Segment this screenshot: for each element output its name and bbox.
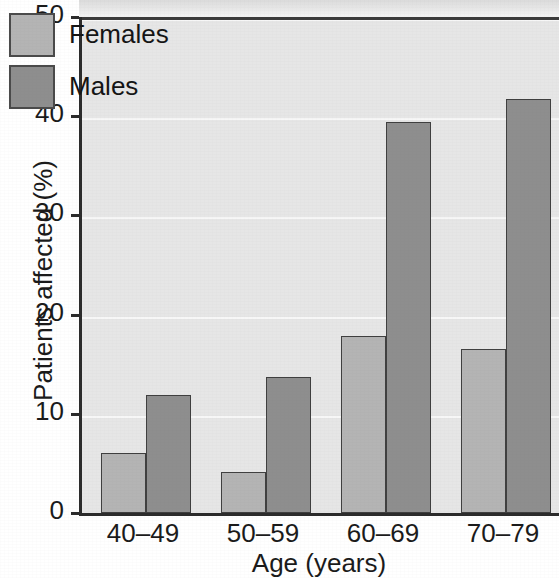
gridline <box>82 317 559 319</box>
gridline <box>82 217 559 219</box>
x-tick-label: 70–79 <box>443 518 559 549</box>
y-tick-mark <box>71 115 79 118</box>
y-tick-mark <box>71 512 79 515</box>
legend-swatch-males-icon <box>9 65 55 109</box>
x-tick-label: 40–49 <box>83 518 203 549</box>
gridline <box>82 118 559 120</box>
legend-label-males: Males <box>69 71 138 102</box>
bar-70-79-females <box>461 349 506 513</box>
y-tick-mark <box>71 413 79 416</box>
bar-60-69-females <box>341 336 386 513</box>
bar-40-49-females <box>101 453 146 513</box>
bar-chart-figure: 01020304050 40–4950–5960–6970–79 Patient… <box>0 0 559 578</box>
x-axis-line <box>79 513 559 516</box>
x-axis-title: Age (years) <box>79 548 559 578</box>
y-tick-label: 0 <box>0 495 64 526</box>
bar-40-49-males <box>146 395 191 513</box>
legend: Females Males <box>9 11 169 115</box>
bar-60-69-males <box>386 122 431 513</box>
legend-swatch-females-icon <box>9 13 55 57</box>
x-tick-label: 50–59 <box>203 518 323 549</box>
bar-50-59-females <box>221 472 266 513</box>
y-tick-mark <box>71 314 79 317</box>
legend-item-females: Females <box>9 11 169 58</box>
y-tick-mark <box>71 214 79 217</box>
x-tick-label: 60–69 <box>323 518 443 549</box>
bar-50-59-males <box>266 377 311 513</box>
bar-70-79-males <box>506 99 551 513</box>
legend-item-males: Males <box>9 63 169 110</box>
legend-label-females: Females <box>69 19 169 50</box>
y-axis-title: Patients affected (%) <box>28 131 59 431</box>
